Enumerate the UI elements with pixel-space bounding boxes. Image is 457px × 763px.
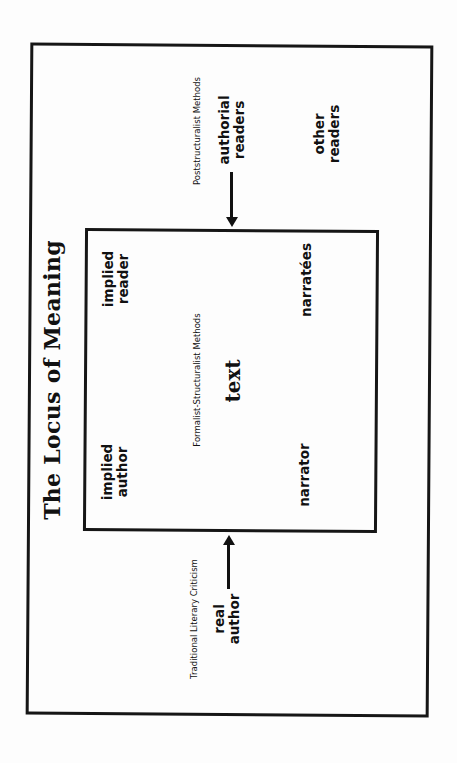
arrow-down-shaft [230,172,233,219]
arrow-up-shaft [227,544,230,589]
title-text: The Locus of Meaning [39,240,65,520]
arrow-down-icon [226,217,238,227]
